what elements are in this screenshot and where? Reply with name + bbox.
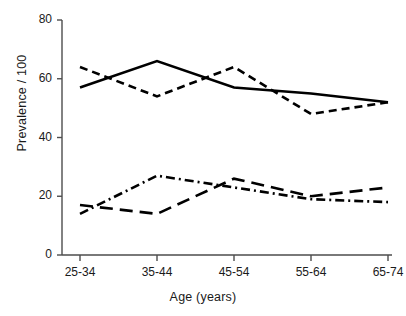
x-tick-label: 65-74 xyxy=(353,265,406,279)
chart-figure: Prevalence / 100 Age (years) 020406080 2… xyxy=(0,0,406,316)
y-tick-label: 60 xyxy=(26,71,52,85)
y-tick-label: 40 xyxy=(26,130,52,144)
x-tick-label: 55-64 xyxy=(276,265,346,279)
series-line-dashed xyxy=(80,67,388,114)
x-tick-label: 25-34 xyxy=(45,265,115,279)
x-tick-label: 45-54 xyxy=(199,265,269,279)
y-tick-label: 20 xyxy=(26,188,52,202)
series-line-dash-dot xyxy=(80,176,388,214)
y-tick-label: 0 xyxy=(26,247,52,261)
x-axis-title: Age (years) xyxy=(0,290,406,304)
x-tick-label: 35-44 xyxy=(122,265,192,279)
axis-lines xyxy=(57,20,392,261)
data-series-layer xyxy=(80,61,388,214)
series-line-solid xyxy=(80,61,388,102)
series-line-long-dash xyxy=(80,179,388,214)
y-tick-label: 80 xyxy=(26,12,52,26)
y-axis-title: Prevalence / 100 xyxy=(15,13,29,193)
